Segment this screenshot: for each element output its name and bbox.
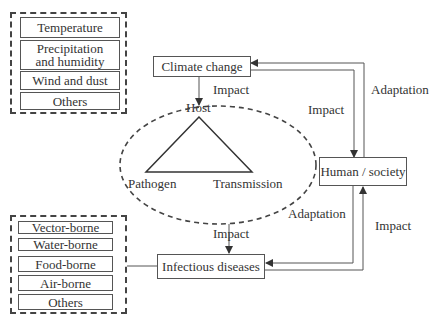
disease-type-water: Water-borne [18, 238, 113, 251]
disease-type-label: Water-borne [33, 238, 97, 251]
edge-label-climate-to-human: Impact [308, 102, 344, 118]
factor-wind-dust: Wind and dust [20, 71, 120, 90]
edge-label-climate-to-triad: Impact [213, 82, 249, 98]
arrow-human-to-diseases [266, 186, 353, 263]
factor-label: Temperature [37, 21, 103, 34]
node-label: Climate change [161, 60, 242, 73]
factor-label: Others [53, 95, 88, 108]
disease-triad-ellipse [120, 106, 316, 224]
disease-type-label: Food-borne [35, 258, 96, 271]
edge-label-human-to-climate: Adaptation [371, 82, 429, 98]
node-label: Human / society [320, 165, 405, 178]
factor-precipitation-humidity: Precipitation and humidity [20, 40, 120, 70]
disease-type-label: Others [48, 296, 83, 309]
triad-transmission-label: Transmission [213, 176, 283, 192]
factor-label: Wind and dust [32, 74, 107, 87]
disease-type-vector: Vector-borne [18, 221, 113, 234]
triad-pathogen-label: Pathogen [128, 176, 176, 192]
disease-type-label: Air-borne [40, 277, 91, 290]
factor-temperature: Temperature [20, 17, 120, 38]
node-climate-change: Climate change [153, 56, 251, 77]
epidemiologic-triangle [146, 117, 252, 172]
edge-label-human-to-diseases: Adaptation [288, 206, 346, 222]
disease-type-others: Others [18, 294, 113, 310]
edge-label-triad-to-diseases: Impact [213, 226, 249, 242]
disease-type-label: Vector-borne [32, 221, 100, 234]
node-label: Infectious diseases [162, 260, 260, 273]
factor-label-line2: and humidity [36, 55, 105, 68]
triad-host-label: Host [186, 100, 211, 116]
disease-type-food: Food-borne [18, 256, 113, 272]
disease-type-air: Air-borne [18, 275, 113, 291]
arrow-diseases-to-human [265, 187, 363, 270]
edge-label-diseases-to-human: Impact [375, 218, 411, 234]
node-human-society: Human / society [319, 157, 407, 186]
node-infectious-diseases: Infectious diseases [157, 254, 265, 279]
factor-others: Others [20, 92, 120, 110]
